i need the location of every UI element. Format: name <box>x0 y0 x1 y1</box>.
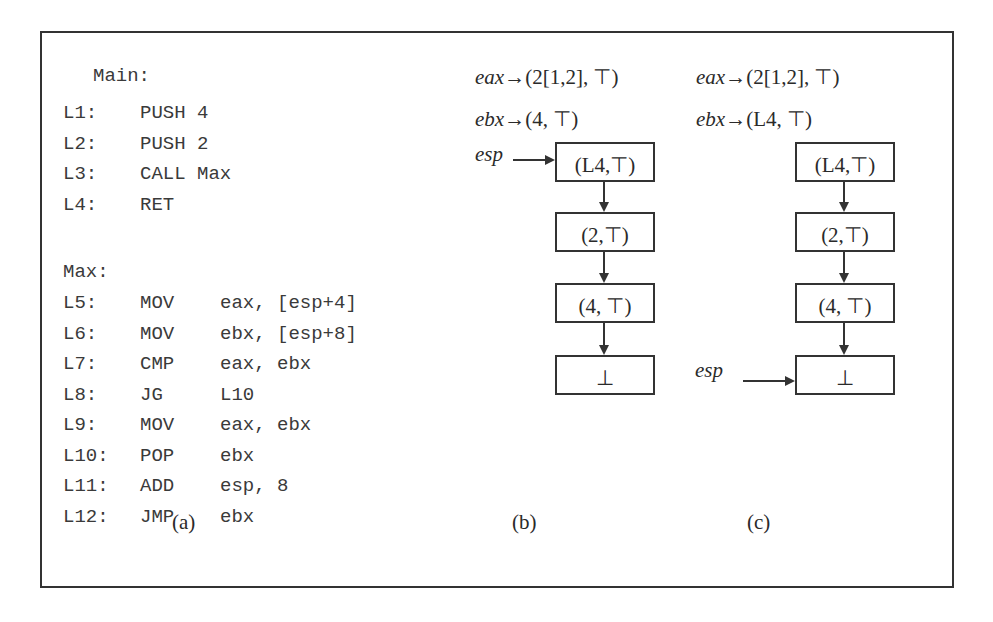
code-line-l6: L6:MOVebx, [esp+8] <box>63 319 357 350</box>
b-link-2-3 <box>603 321 605 347</box>
code-line-l7: L7:CMPeax, ebx <box>63 349 311 380</box>
caption-a: (a) <box>172 510 195 535</box>
b-link-1-2 <box>603 250 605 275</box>
c-ebx-state: ebx→(L4, ⊤) <box>696 107 812 132</box>
code-line-l5: L5:MOVeax, [esp+4] <box>63 288 357 319</box>
b-stack-cell-2: (4, ⊤) <box>555 283 655 323</box>
b-eax-state: eax→(2[1,2], ⊤) <box>475 65 618 90</box>
c-eax-state: eax→(2[1,2], ⊤) <box>696 65 839 90</box>
c-stack-cell-3-bottom: ⊥ <box>795 355 895 395</box>
caption-c: (c) <box>747 510 770 535</box>
c-esp-arrow-head-icon <box>785 376 795 386</box>
assembly-code-panel: Main: L1:PUSH 4 L2:PUSH 2 L3:CALL Max L4… <box>63 61 443 521</box>
c-link-0-1 <box>843 180 845 204</box>
b-link-0-1 <box>603 180 605 204</box>
b-link-arrow-icon <box>599 273 609 283</box>
caption-b: (b) <box>512 510 537 535</box>
c-link-arrow-icon <box>839 273 849 283</box>
b-stack-cell-0: (L4,⊤) <box>555 142 655 182</box>
c-stack-cell-1: (2,⊤) <box>795 212 895 252</box>
b-link-arrow-icon <box>599 345 609 355</box>
c-link-1-2 <box>843 250 845 275</box>
code-line-l9: L9:MOVeax, ebx <box>63 410 311 441</box>
b-esp-arrow-head-icon <box>545 155 555 165</box>
code-line-l3: L3:CALL Max <box>63 159 231 190</box>
b-stack-cell-3-bottom: ⊥ <box>555 355 655 395</box>
c-link-arrow-icon <box>839 345 849 355</box>
b-esp-label: esp <box>475 142 503 167</box>
c-link-2-3 <box>843 321 845 347</box>
code-line-l10: L10:POPebx <box>63 441 254 472</box>
c-esp-arrow-shaft <box>743 380 785 382</box>
code-line-l1: L1:PUSH 4 <box>63 98 208 129</box>
b-ebx-state: ebx→(4, ⊤) <box>475 107 578 132</box>
c-stack-cell-0: (L4,⊤) <box>795 142 895 182</box>
code-line-l2: L2:PUSH 2 <box>63 129 208 160</box>
code-line-l4: L4:RET <box>63 190 174 221</box>
code-line-l8: L8:JGL10 <box>63 380 254 411</box>
code-line-l11: L11:ADDesp, 8 <box>63 471 288 502</box>
b-esp-arrow-shaft <box>513 159 545 161</box>
main-label: Main: <box>93 61 150 92</box>
b-stack-cell-1: (2,⊤) <box>555 212 655 252</box>
c-stack-cell-2: (4, ⊤) <box>795 283 895 323</box>
c-esp-label: esp <box>695 358 723 383</box>
code-line-l12: L12:JMPebx <box>63 502 254 533</box>
c-link-arrow-icon <box>839 202 849 212</box>
b-link-arrow-icon <box>599 202 609 212</box>
max-label: Max: <box>63 257 109 288</box>
